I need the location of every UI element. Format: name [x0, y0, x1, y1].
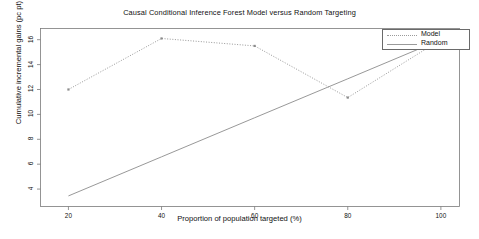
data-point-model	[67, 88, 69, 90]
y-tick-label: 4	[26, 182, 33, 196]
data-series-group	[67, 37, 442, 196]
legend-swatch-model	[387, 35, 417, 37]
y-tick-label: 10	[26, 107, 33, 121]
y-tick-label: 14	[26, 57, 33, 71]
y-tick-label: 12	[26, 82, 33, 96]
x-tick-label: 100	[433, 212, 449, 219]
data-point-model	[347, 96, 349, 98]
y-tick-label: 6	[26, 157, 33, 171]
x-axis-ticks	[68, 207, 440, 211]
x-tick-label: 80	[340, 212, 356, 219]
legend-swatch-random	[387, 44, 417, 46]
chart-legend: Model Random	[382, 29, 470, 50]
y-tick-label: 16	[26, 32, 33, 46]
data-point-model	[254, 45, 256, 47]
x-tick-label: 40	[154, 212, 170, 219]
data-point-model	[160, 37, 162, 39]
x-tick-label: 60	[247, 212, 263, 219]
series-line-random	[68, 40, 440, 196]
y-axis-title: Cumulative incremental gains (pc pt)	[14, 0, 23, 143]
plot-frame	[41, 29, 460, 207]
chart-figure: Causal Conditional Inference Forest Mode…	[0, 0, 479, 239]
legend-label-model: Model	[421, 30, 440, 37]
legend-label-random: Random	[421, 39, 447, 46]
legend-item-random: Random	[383, 40, 471, 50]
y-axis-ticks	[37, 40, 41, 189]
plot-border	[41, 29, 460, 207]
x-tick-label: 20	[60, 212, 76, 219]
y-tick-label: 8	[26, 132, 33, 146]
